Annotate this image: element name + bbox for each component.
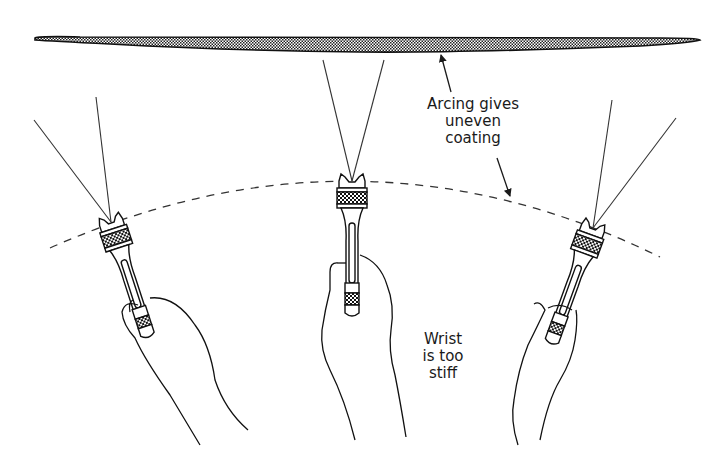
diagram-canvas: Arcing gives uneven coating Wrist is too… bbox=[0, 0, 707, 469]
arcing-label-line-2: uneven bbox=[418, 113, 528, 130]
wrist-label-line-2: is too bbox=[408, 348, 478, 365]
arcing-label: Arcing gives uneven coating bbox=[418, 96, 528, 147]
spray-gun-center bbox=[337, 174, 367, 316]
wrist-label-line-1: Wrist bbox=[408, 331, 478, 348]
hand-center bbox=[322, 255, 406, 440]
arcing-label-line-3: coating bbox=[418, 130, 528, 147]
arrow-to-arc bbox=[497, 158, 510, 196]
wrist-label-line-3: stiff bbox=[408, 365, 478, 382]
spray-gun-left bbox=[96, 211, 162, 341]
spray-lines-right bbox=[593, 100, 676, 228]
coating-band bbox=[35, 37, 700, 52]
hand-right bbox=[513, 303, 577, 445]
diagram-svg bbox=[0, 0, 707, 469]
arrow-to-coating bbox=[441, 55, 451, 92]
spray-lines-center bbox=[323, 60, 384, 181]
spray-gun-right bbox=[538, 217, 609, 349]
spray-lines-left bbox=[34, 97, 111, 222]
arcing-label-line-1: Arcing gives bbox=[418, 96, 528, 113]
wrist-label: Wrist is too stiff bbox=[408, 331, 478, 382]
